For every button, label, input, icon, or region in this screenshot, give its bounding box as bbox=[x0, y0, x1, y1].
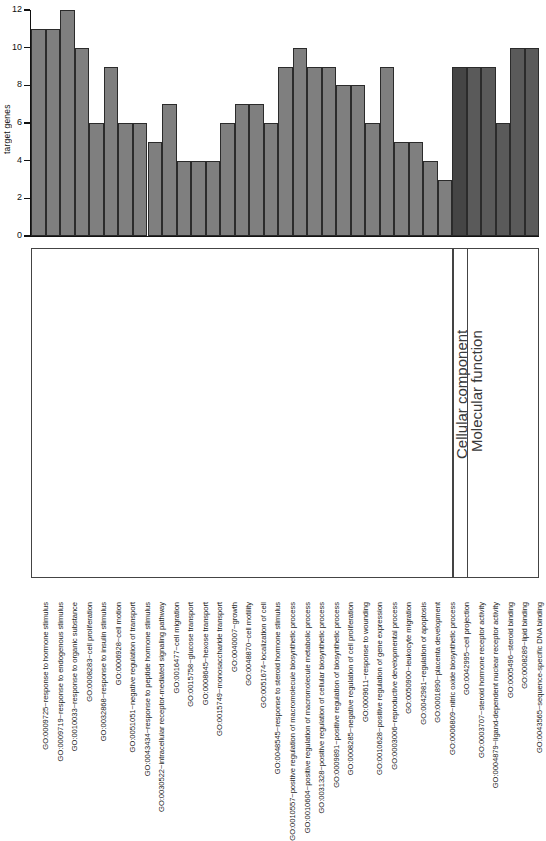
x-axis-label: GO:0043434~response to peptide hormone s… bbox=[143, 602, 152, 776]
bar[interactable] bbox=[177, 161, 192, 236]
y-axis-tick-label: 4 bbox=[0, 155, 22, 165]
x-axis-label: GO:0043565~sequence-specific DNA binding bbox=[535, 602, 544, 753]
x-axis-label: GO:0051051~negative regulation of transp… bbox=[128, 602, 137, 752]
bar[interactable] bbox=[118, 123, 133, 236]
plot-area: target genes 024681012 bbox=[0, 0, 546, 240]
y-axis-tick bbox=[24, 85, 30, 86]
x-axis-label: GO:0009611~response to wounding bbox=[361, 602, 370, 722]
bar[interactable] bbox=[148, 142, 163, 236]
bar[interactable] bbox=[206, 161, 221, 236]
group-label-molecular-function: Molecular function bbox=[468, 330, 541, 576]
x-axis-label: GO:0010557~positive regulation of macrom… bbox=[288, 602, 297, 841]
bar[interactable] bbox=[380, 67, 395, 237]
x-axis-label: GO:0008289~lipid binding bbox=[520, 602, 529, 689]
bar[interactable] bbox=[452, 67, 467, 237]
y-axis-tick-label: 2 bbox=[0, 192, 22, 202]
x-axis-line bbox=[30, 236, 539, 237]
bar[interactable] bbox=[249, 104, 264, 236]
x-axis-label: GO:0032868~response to insulin stimulus bbox=[99, 602, 108, 741]
x-axis-label: GO:0009719~response to endogenous stimul… bbox=[56, 602, 65, 761]
bar[interactable] bbox=[365, 123, 380, 236]
x-axis-label: GO:0004879~ligand-dependent nuclear rece… bbox=[491, 602, 500, 788]
x-axis-label: GO:0031328~positive regulation of cellul… bbox=[317, 602, 326, 814]
bar[interactable] bbox=[322, 67, 337, 237]
x-axis-label: GO:0050900~leukocyte migration bbox=[404, 602, 413, 714]
x-axis-label: GO:0010033~response to organic substance bbox=[70, 602, 79, 751]
y-axis-tick bbox=[24, 9, 30, 10]
bar[interactable] bbox=[525, 48, 540, 236]
bar[interactable] bbox=[510, 48, 525, 236]
y-axis-tick-label: 6 bbox=[0, 117, 22, 127]
x-axis-label: GO:0051674~localization of cell bbox=[259, 602, 268, 708]
bar[interactable] bbox=[278, 67, 293, 237]
y-axis-tick bbox=[24, 160, 30, 161]
x-axis-label: GO:0009891~positive regulation of biosyn… bbox=[332, 602, 341, 788]
y-axis-tick bbox=[24, 47, 30, 48]
bar[interactable] bbox=[220, 123, 235, 236]
bar[interactable] bbox=[336, 85, 351, 236]
bar[interactable] bbox=[423, 161, 438, 236]
bars-container bbox=[31, 10, 539, 236]
bar[interactable] bbox=[307, 67, 322, 237]
bar[interactable] bbox=[496, 123, 511, 236]
bar[interactable] bbox=[438, 180, 453, 237]
y-axis-tick bbox=[24, 122, 30, 123]
bar[interactable] bbox=[264, 123, 279, 236]
bar[interactable] bbox=[60, 10, 75, 236]
bar[interactable] bbox=[235, 104, 250, 236]
group-label-cellular-component: Cellular component bbox=[453, 330, 468, 576]
bar[interactable] bbox=[89, 123, 104, 236]
x-axis-label: GO:0001890~placenta development bbox=[433, 602, 442, 723]
bar[interactable] bbox=[133, 123, 148, 236]
bar[interactable] bbox=[162, 104, 177, 236]
bar[interactable] bbox=[394, 142, 409, 236]
y-axis-title: target genes bbox=[2, 94, 16, 164]
x-axis-label: GO:0030522~intracellular receptor-mediat… bbox=[157, 602, 166, 812]
x-axis-label: GO:0006809~nitric oxide biosynthetic pro… bbox=[448, 602, 457, 755]
x-axis-label: GO:0048870~cell motility bbox=[244, 602, 253, 686]
y-axis-tick-label: 10 bbox=[0, 42, 22, 52]
x-axis-label: GO:0008285~negative regulation of cell p… bbox=[346, 602, 355, 775]
bar[interactable] bbox=[104, 67, 119, 237]
x-axis-label: GO:0008645~hexose transport bbox=[201, 602, 210, 705]
x-axis-label: GO:0009725~response to hormone stimulus bbox=[41, 602, 50, 750]
x-axis-label: GO:0005496~steroid binding bbox=[506, 602, 515, 698]
bar[interactable] bbox=[31, 29, 46, 236]
bar[interactable] bbox=[46, 29, 61, 236]
bar[interactable] bbox=[191, 161, 206, 236]
bar[interactable] bbox=[351, 85, 366, 236]
x-axis-label: GO:0015758~glucose transport bbox=[186, 602, 195, 707]
bar[interactable] bbox=[75, 48, 90, 236]
x-axis-label: GO:0042995~cell projection bbox=[462, 602, 471, 695]
x-axis-label: GO:0042981~regulation of apoptosis bbox=[419, 602, 428, 725]
x-axis-label: GO:0006928~cell motion bbox=[114, 602, 123, 685]
x-axis-label: GO:0010628~positive regulation of gene e… bbox=[375, 602, 384, 775]
x-axis-label: GO:0010604~positive regulation of macrom… bbox=[303, 602, 312, 833]
y-axis-tick-label: 0 bbox=[0, 230, 22, 240]
x-axis-label: GO:0008283~cell proliferation bbox=[85, 602, 94, 702]
x-axis-label: GO:0040007~growth bbox=[230, 602, 239, 672]
x-axis-label: GO:0003707~steroid hormone receptor acti… bbox=[477, 602, 486, 758]
y-axis-tick bbox=[24, 235, 30, 236]
x-axis-label: GO:0015749~monosaccharide transport bbox=[215, 602, 224, 736]
bar[interactable] bbox=[467, 67, 482, 237]
bar[interactable] bbox=[481, 67, 496, 237]
x-axis-label: GO:0003006~reproductive developmental pr… bbox=[390, 602, 399, 770]
bar[interactable] bbox=[409, 142, 424, 236]
y-axis-tick bbox=[24, 198, 30, 199]
y-axis-tick-label: 12 bbox=[0, 4, 22, 14]
x-axis-label: GO:0016477~cell migration bbox=[172, 602, 181, 693]
y-axis-tick-label: 8 bbox=[0, 79, 22, 89]
bar[interactable] bbox=[293, 48, 308, 236]
x-axis-label: GO:0048545~response to steroid hormone s… bbox=[273, 602, 282, 774]
